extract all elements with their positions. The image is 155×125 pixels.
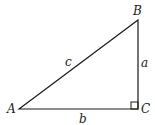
vertex-label-c: C (141, 102, 150, 116)
vertex-label-b: B (132, 4, 142, 18)
side-label-hypotenuse: c (65, 55, 72, 69)
right-triangle-diagram: A B C c a b (0, 0, 155, 125)
vertex-label-a: A (6, 102, 16, 116)
side-label-base: b (79, 112, 87, 125)
triangle-shape (19, 20, 138, 109)
side-label-vertical: a (141, 56, 148, 70)
right-angle-marker (131, 102, 138, 109)
